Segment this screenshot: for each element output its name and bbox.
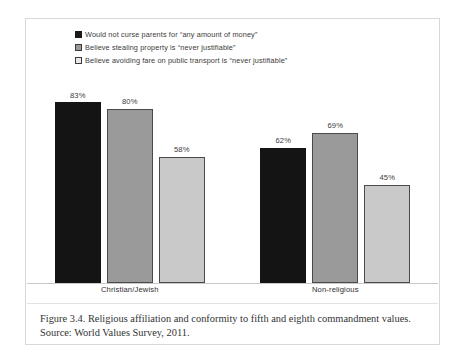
bar-slot: 83% <box>55 65 101 283</box>
figure-container: Would not curse parents for “any amount … <box>25 18 440 345</box>
legend-item-label: Would not curse parents for “any amount … <box>85 30 257 39</box>
category-label: Christian/Jewish <box>27 285 233 294</box>
category-axis-labels: Christian/Jewish Non-religious <box>27 285 438 294</box>
plot-area: 83% 80% 58% 62% 69% <box>27 65 438 284</box>
legend-item: Would not curse parents for “any amount … <box>75 28 415 40</box>
bar <box>107 109 153 283</box>
bar-group: 83% 80% 58% <box>27 65 233 283</box>
bar-value-label: 80% <box>122 98 138 106</box>
bar-slot: 80% <box>107 65 153 283</box>
bar-slot: 58% <box>159 65 205 283</box>
axis-baseline <box>27 283 438 284</box>
bar <box>260 148 306 283</box>
bar <box>364 185 410 283</box>
bar-value-label: 83% <box>70 92 86 100</box>
bar-group: 62% 69% 45% <box>233 65 439 283</box>
category-label: Non-religious <box>233 285 439 294</box>
bar-slot: 62% <box>260 65 306 283</box>
legend-item-label: Believe stealing property is “never just… <box>85 43 236 52</box>
legend-swatch-icon <box>75 31 82 38</box>
legend-swatch-icon <box>75 44 82 51</box>
bar <box>312 133 358 283</box>
legend-item-label: Believe avoiding fare on public transpor… <box>85 56 287 65</box>
bar <box>159 157 205 283</box>
bar-groups: 83% 80% 58% 62% 69% <box>27 65 438 283</box>
caption-divider <box>27 303 438 304</box>
bar-slot: 45% <box>364 65 410 283</box>
bar-value-label: 69% <box>328 122 344 130</box>
bar-value-label: 58% <box>174 146 190 154</box>
legend-swatch-icon <box>75 57 82 64</box>
bar <box>55 102 101 283</box>
bar-value-label: 45% <box>380 174 396 182</box>
chart-legend: Would not curse parents for “any amount … <box>75 28 415 67</box>
legend-item: Believe stealing property is “never just… <box>75 41 415 53</box>
figure-caption: Figure 3.4. Religious affiliation and co… <box>40 312 421 340</box>
bar-value-label: 62% <box>276 137 292 145</box>
bar-slot: 69% <box>312 65 358 283</box>
